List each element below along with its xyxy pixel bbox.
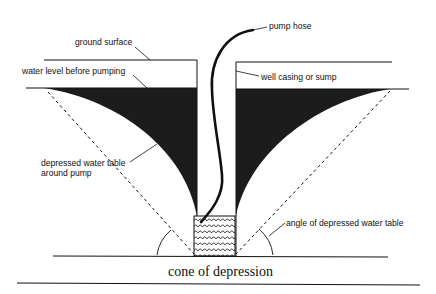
label-well-casing: well casing or sump: [260, 72, 337, 82]
depressed-water-fill-left: [44, 88, 197, 216]
leader-well-casing: [236, 71, 259, 76]
label-depressed-water-table-1: depressed water table: [41, 158, 126, 168]
angle-arc-right: [259, 229, 273, 255]
label-pump-hose: pump hose: [269, 21, 312, 31]
bottom-base-line: [53, 256, 388, 257]
label-water-level-before-pumping: water level before pumping: [21, 66, 125, 76]
leader-pump-hose: [253, 27, 267, 30]
cone-of-depression-diagram: pump hose ground surface water level bef…: [0, 0, 436, 294]
diagram-title: cone of depression: [168, 264, 273, 279]
leader-depressed-table: [130, 144, 157, 162]
leader-ground-surface: [135, 47, 150, 60]
title-underline: [17, 283, 420, 285]
label-angle-of-depressed-water-table: angle of depressed water table: [286, 218, 404, 228]
depressed-water-fill-right: [236, 89, 390, 216]
label-depressed-water-table-2: around pump: [41, 168, 92, 178]
label-ground-surface: ground surface: [75, 37, 133, 47]
leader-water-level: [133, 75, 147, 88]
leader-angle: [269, 223, 285, 236]
angle-arc-left: [157, 230, 171, 255]
